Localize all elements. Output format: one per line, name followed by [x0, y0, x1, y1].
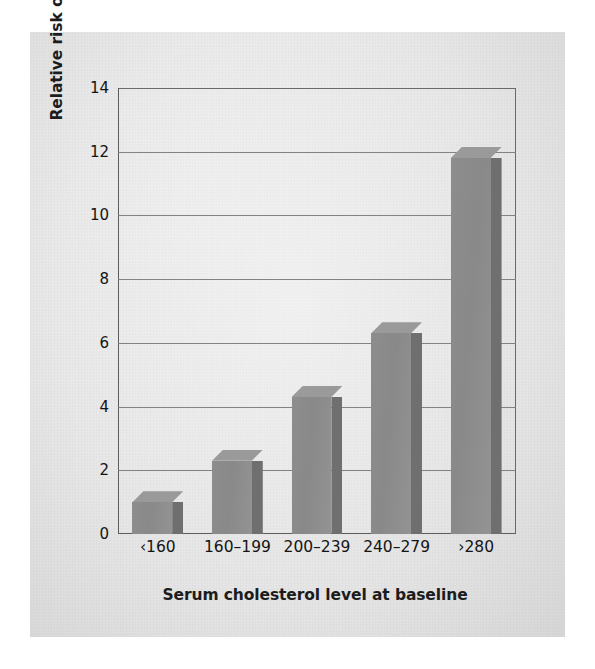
bar-series — [118, 88, 516, 534]
x-axis-tick-label: 160–199 — [204, 540, 271, 556]
y-axis-tick-label: 0 — [99, 527, 109, 542]
y-axis-tick-label: 14 — [90, 81, 109, 96]
bar-side-face — [172, 502, 183, 534]
y-axis-tick-label: 6 — [99, 335, 109, 350]
bar-side-face — [252, 461, 263, 534]
y-axis-title: Relative risk of mortality due to corona… — [44, 0, 70, 116]
x-axis-tick-label: ›280 — [458, 540, 494, 556]
bar-front-face — [451, 158, 491, 534]
y-axis-tick-label: 4 — [99, 399, 109, 414]
bar-top-face — [292, 386, 343, 397]
y-axis-tick-label: 10 — [90, 208, 109, 223]
bar-front-face — [292, 397, 332, 534]
bar — [212, 461, 252, 534]
bar — [451, 158, 491, 534]
bar-front-face — [212, 461, 252, 534]
bar-top-face — [371, 322, 422, 333]
x-axis-tick-label: 240–279 — [363, 540, 430, 556]
y-axis-tick-label: 12 — [90, 144, 109, 159]
bar-side-face — [331, 397, 342, 534]
plot-area: 02468101214 — [118, 88, 516, 534]
x-axis-tick-label: ‹160 — [140, 540, 176, 556]
bar-front-face — [371, 333, 411, 534]
y-axis-tick-label: 8 — [99, 272, 109, 287]
bar-front-face — [132, 502, 172, 534]
bar — [132, 502, 172, 534]
figure-root: Relative risk of mortality due to corona… — [0, 0, 595, 669]
x-axis-title: Serum cholesterol level at baseline — [110, 586, 520, 604]
bar-side-face — [411, 333, 422, 534]
y-axis-tick-label: 2 — [99, 463, 109, 478]
bar — [292, 397, 332, 534]
bar — [371, 333, 411, 534]
bar-top-face — [212, 450, 263, 461]
x-axis-tick-labels: ‹160160–199200–239240–279›280 — [118, 540, 516, 574]
x-axis-tick-label: 200–239 — [284, 540, 351, 556]
bar-top-face — [132, 491, 183, 502]
bar-side-face — [491, 158, 502, 534]
bar-top-face — [451, 147, 502, 158]
